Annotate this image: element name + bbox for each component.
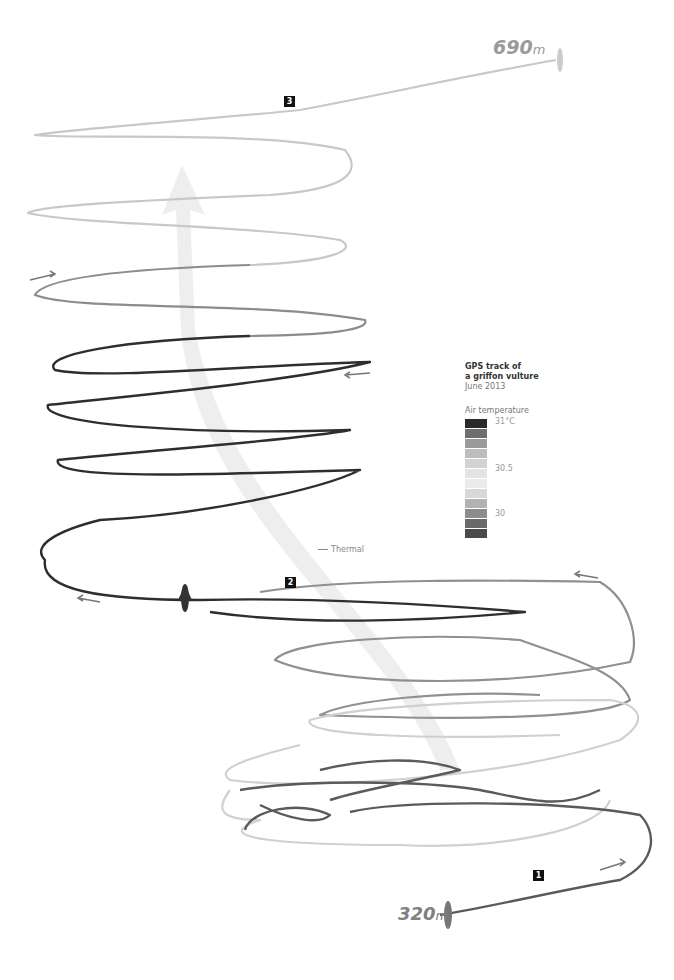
- legend-swatch: [465, 419, 487, 428]
- legend-swatch: [465, 489, 487, 498]
- direction-arrows: [30, 271, 625, 870]
- legend-swatch: [465, 509, 487, 518]
- track-lower-dark: [240, 761, 651, 915]
- tick-mid: 30.5: [495, 464, 513, 473]
- legend-swatch: [465, 469, 487, 478]
- tick-top: 31°C: [495, 417, 515, 426]
- legend-swatch: [465, 439, 487, 448]
- track-upper-mid: [35, 265, 365, 336]
- marker-3: 3: [284, 96, 295, 107]
- vulture-icon: [557, 48, 563, 72]
- thermal-label: Thermal: [318, 545, 364, 554]
- vulture-icon: [178, 584, 192, 612]
- tick-bottom: 30: [495, 509, 505, 518]
- legend-swatch: [465, 499, 487, 508]
- temperature-scale: 31°C 30.5 30: [465, 419, 575, 519]
- legend-heading: Air temperature: [465, 406, 575, 415]
- marker-1: 1: [533, 870, 544, 881]
- legend-swatch: [465, 479, 487, 488]
- legend-title-line1: GPS track of: [465, 362, 575, 372]
- track-upper-light: [28, 60, 556, 265]
- track-dark: [41, 336, 525, 621]
- legend-swatch: [465, 459, 487, 468]
- marker-2: 2: [285, 577, 296, 588]
- legend-swatch: [465, 449, 487, 458]
- legend-swatch: [465, 519, 487, 528]
- thermal-arrow: [162, 165, 460, 770]
- altitude-bottom-label: 320m: [398, 903, 448, 924]
- legend: GPS track of a griffon vulture June 2013…: [465, 362, 575, 519]
- altitude-top-label: 690m: [493, 36, 545, 58]
- legend-swatch: [465, 529, 487, 538]
- legend-swatch: [465, 429, 487, 438]
- legend-date: June 2013: [465, 382, 575, 392]
- legend-title-line2: a griffon vulture: [465, 372, 575, 382]
